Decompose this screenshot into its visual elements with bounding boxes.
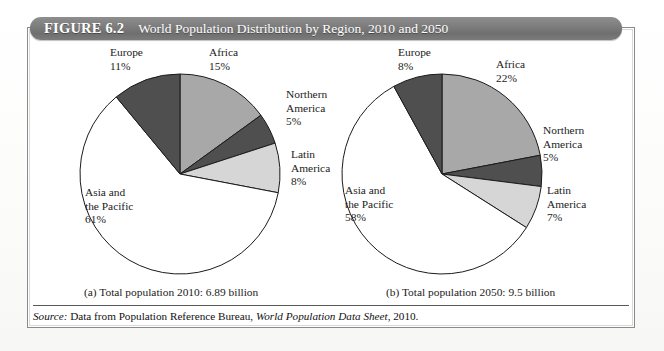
- charts-container: Africa15%NorthernAmerica5%LatinAmerica8%…: [28, 42, 634, 287]
- source-note: Source: Data from Population Reference B…: [33, 310, 418, 322]
- source-publication: World Population Data Sheet: [256, 310, 388, 322]
- source-text: Data from Population Reference Bureau,: [70, 310, 253, 322]
- pie-2010: Africa15%NorthernAmerica5%LatinAmerica8%…: [80, 46, 330, 274]
- pie-label-europe: Europe11%: [110, 46, 143, 72]
- source-divider: [33, 305, 629, 306]
- pie-label-africa: Africa15%: [209, 46, 238, 72]
- figure-header-bar: FIGURE 6.2 World Population Distribution…: [30, 17, 622, 40]
- caption-chart-a: (a) Total population 2010: 6.89 billion: [84, 286, 258, 298]
- pie-label-europe: Europe8%: [398, 46, 431, 72]
- pie-label-northern-america: NorthernAmerica5%: [543, 124, 584, 163]
- caption-chart-b: (b) Total population 2050: 9.5 billion: [386, 286, 555, 298]
- figure-number: FIGURE 6.2: [30, 20, 124, 37]
- figure-title: World Population Distribution by Region,…: [124, 21, 448, 37]
- pie-charts-svg: Africa15%NorthernAmerica5%LatinAmerica8%…: [28, 42, 634, 287]
- source-label: Source:: [33, 310, 67, 322]
- pie-label-latin-america: LatinAmerica7%: [547, 184, 586, 223]
- pie-label-africa: Africa22%: [496, 58, 525, 84]
- pie-label-northern-america: NorthernAmerica5%: [286, 88, 327, 127]
- source-year: , 2010.: [388, 310, 419, 322]
- pie-label-latin-america: LatinAmerica8%: [291, 148, 330, 187]
- pie-2050: Africa22%NorthernAmerica5%LatinAmerica7%…: [342, 46, 586, 274]
